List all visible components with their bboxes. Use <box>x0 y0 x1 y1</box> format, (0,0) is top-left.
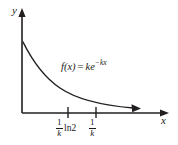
function-base: ke <box>86 61 95 72</box>
x-axis-label: x <box>161 115 166 126</box>
function-exponent: −kx <box>95 58 107 67</box>
fraction-one-over-k: 1 k <box>89 118 96 138</box>
function-equation-label: f(x)=ke−kx <box>61 59 107 72</box>
fraction-numerator: 1 <box>56 118 63 129</box>
y-axis-label: y <box>12 5 17 16</box>
y-axis <box>18 8 25 113</box>
tick-suffix-ln2: ln2 <box>64 124 76 134</box>
function-equals: = <box>76 61 86 72</box>
y-axis-arrowhead <box>18 8 25 17</box>
fraction-one-over-k: 1 k <box>56 118 63 138</box>
tick-label-ln2-over-k: 1 k ln2 <box>56 119 76 139</box>
tick-label-one-over-k: 1 k <box>89 119 96 139</box>
exponential-decay-figure: y x f(x)=ke−kx 1 k ln2 1 k <box>0 0 178 145</box>
function-lhs: f(x) <box>61 61 76 72</box>
fraction-numerator: 1 <box>89 118 96 129</box>
fraction-denominator: k <box>89 129 95 139</box>
curve-arrowhead <box>132 104 142 112</box>
fraction-denominator: k <box>56 129 62 139</box>
exponential-curve <box>23 42 141 112</box>
curve-path <box>23 42 133 108</box>
